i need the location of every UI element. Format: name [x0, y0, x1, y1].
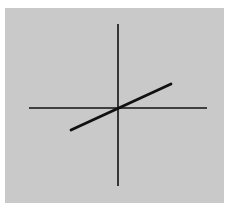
axes-diagram	[0, 0, 233, 210]
diagram-canvas	[0, 0, 233, 210]
linear-function-line	[71, 84, 171, 130]
